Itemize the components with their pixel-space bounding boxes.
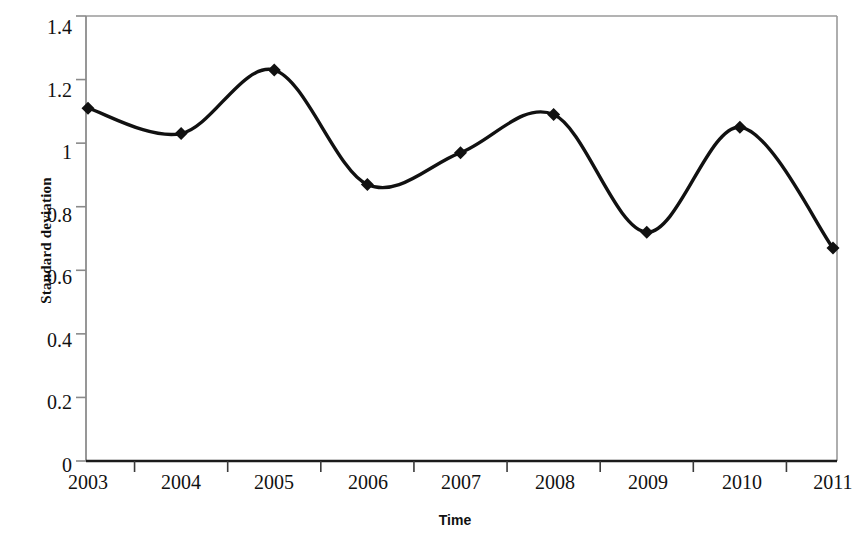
data-point-marker bbox=[82, 102, 95, 115]
x-tick-label: 2007 bbox=[416, 472, 506, 492]
x-tick-label: 2011 bbox=[788, 472, 859, 492]
data-point-marker bbox=[733, 121, 746, 134]
x-tick-label: 2006 bbox=[323, 472, 413, 492]
data-point-marker bbox=[640, 226, 653, 239]
data-point-marker bbox=[454, 146, 467, 159]
chart-figure: Standard deviation 0 0.2 0.4 0.6 0.8 1 1… bbox=[0, 0, 859, 538]
data-point-marker bbox=[268, 64, 281, 77]
x-tick-label: 2010 bbox=[697, 472, 787, 492]
y-axis-ticks bbox=[76, 16, 86, 461]
x-tick-label: 2008 bbox=[510, 472, 600, 492]
data-point-marker bbox=[175, 127, 188, 140]
x-tick-label: 2005 bbox=[229, 472, 319, 492]
x-tick-label: 2003 bbox=[43, 472, 133, 492]
x-axis-title: Time bbox=[375, 512, 535, 528]
x-tick-label: 2004 bbox=[136, 472, 226, 492]
x-axis-tick-labels: 2003 2004 2005 2006 2007 2008 2009 2010 … bbox=[0, 472, 859, 512]
axis-frame bbox=[86, 16, 837, 461]
data-point-markers bbox=[82, 64, 840, 255]
plot-area bbox=[0, 0, 859, 538]
x-tick-label: 2009 bbox=[603, 472, 693, 492]
